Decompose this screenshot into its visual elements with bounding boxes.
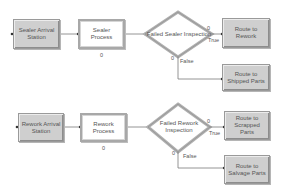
decision-false-counter: 0 (171, 55, 174, 61)
module-label: Rework Arrival Station (21, 121, 61, 135)
module-label: Route to Rework (225, 26, 267, 40)
module-label: Route to Shipped Parts (225, 71, 267, 85)
decision-false-counter: 0 (172, 150, 175, 156)
module-label: Rework Process (84, 121, 123, 135)
flowchart-canvas: Sealer Arrival Station Sealer Process 0 … (0, 0, 287, 195)
module-label: Route to Salvage Parts (227, 163, 267, 177)
true-branch-label: True (208, 37, 219, 43)
process-counter: 0 (102, 145, 105, 151)
module-label: Sealer Arrival Station (16, 27, 57, 41)
rework-process-module[interactable]: Rework Process (80, 113, 127, 142)
decision-true-counter: 0 (207, 25, 210, 31)
route-to-shipped-parts-module[interactable]: Route to Shipped Parts (222, 64, 270, 91)
route-to-scrapped-parts-module[interactable]: Route to Scrapped Parts (224, 111, 270, 140)
false-branch-label: False (180, 58, 193, 64)
decision-label: Failed Rework Inspection (156, 119, 202, 135)
sealer-process-module[interactable]: Sealer Process (78, 19, 125, 49)
decision-label: Failed Sealer Inspection (146, 29, 212, 39)
route-to-rework-module[interactable]: Route to Rework (222, 18, 270, 48)
true-branch-label: True (209, 130, 220, 136)
module-label: Sealer Process (82, 27, 121, 41)
route-to-salvage-parts-module[interactable]: Route to Salvage Parts (224, 155, 270, 184)
module-label: Route to Scrapped Parts (227, 115, 267, 136)
rework-arrival-station-module[interactable]: Rework Arrival Station (18, 113, 64, 142)
false-branch-label: False (183, 153, 196, 159)
decision-true-counter: 0 (207, 118, 210, 124)
process-counter: 0 (100, 52, 103, 58)
sealer-arrival-station-module[interactable]: Sealer Arrival Station (13, 19, 60, 49)
